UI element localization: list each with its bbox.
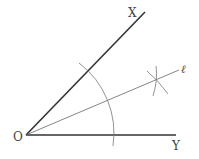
angle-bisector-diagram: O X Y ℓ xyxy=(0,0,199,159)
label-vertex-o: O xyxy=(13,130,23,144)
ray-ox xyxy=(26,12,145,135)
label-ray-x: X xyxy=(128,6,137,20)
label-bisector: ℓ xyxy=(181,63,186,76)
label-ray-y: Y xyxy=(171,139,181,153)
